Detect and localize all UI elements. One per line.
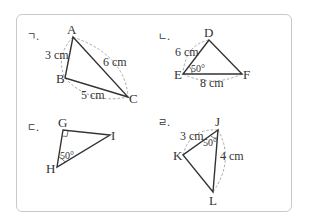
- vertex-a: A: [67, 22, 77, 37]
- vertex-f: F: [243, 67, 250, 82]
- label-ef: 8 cm: [200, 76, 224, 90]
- figure-nieun: ㄴ. D E F 6 cm 50° 8 cm: [158, 25, 250, 90]
- label-de: 6 cm: [175, 45, 199, 59]
- vertex-g: G: [58, 115, 67, 130]
- figure-giyeok: ㄱ. A B C 3 cm 6 cm 5 cm: [27, 22, 138, 106]
- marker-giyeok: ㄱ.: [27, 31, 39, 42]
- vertex-j: J: [215, 114, 220, 129]
- label-ab: 3 cm: [45, 48, 69, 62]
- marker-digeut: ㄷ.: [27, 122, 39, 133]
- label-angle-h: 50°: [60, 150, 74, 161]
- label-angle-j: 50°: [203, 137, 217, 148]
- triangles-diagram: ㄱ. A B C 3 cm 6 cm 5 cm ㄴ. D E F 6 cm 50…: [0, 0, 311, 224]
- label-angle-e: 50°: [191, 63, 205, 74]
- marker-rieul: ㄹ.: [158, 117, 170, 128]
- vertex-k: K: [173, 148, 183, 163]
- vertex-c: C: [129, 91, 138, 106]
- marker-nieun: ㄴ.: [158, 31, 170, 42]
- label-ac: 6 cm: [103, 55, 127, 69]
- vertex-d: D: [204, 25, 213, 40]
- figure-rieul: ㄹ. J K L 3 cm 50° 4 cm: [158, 114, 244, 208]
- vertex-i: I: [111, 128, 115, 143]
- label-bc: 5 cm: [81, 88, 105, 102]
- figure-digeut: ㄷ. G H I 50°: [27, 115, 115, 176]
- vertex-e: E: [174, 67, 182, 82]
- label-jk: 3 cm: [180, 129, 204, 143]
- label-jl: 4 cm: [220, 149, 244, 163]
- vertex-l: L: [209, 193, 217, 208]
- vertex-b: B: [56, 71, 65, 86]
- vertex-h: H: [46, 161, 55, 176]
